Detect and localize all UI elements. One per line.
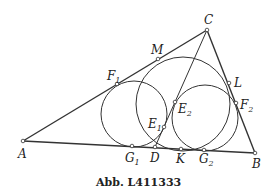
point-e1 [162, 125, 166, 129]
label-m: M [150, 43, 164, 57]
point-f2 [234, 101, 238, 105]
label-d: D [149, 151, 160, 165]
label-f2: F2 [239, 98, 253, 114]
label-g1: G1 [125, 151, 140, 167]
geometry-diagram: A B C D K M L F1 F2 G1 G2 E1 E2 Abb. L41… [0, 0, 278, 191]
label-b: B [251, 157, 261, 171]
label-a: A [17, 147, 27, 161]
point-c [205, 28, 209, 32]
point-l [227, 81, 231, 85]
point-g1 [130, 144, 134, 148]
side-ca [23, 30, 207, 141]
point-d [153, 145, 157, 149]
label-k: K [175, 152, 186, 166]
point-e2 [173, 100, 177, 104]
label-e2: E2 [177, 102, 192, 118]
figure-caption: Abb. L411333 [95, 176, 181, 189]
incircle-1 [101, 81, 167, 147]
label-e1: E1 [147, 117, 162, 133]
label-g2: G2 [199, 152, 214, 168]
point-a [21, 139, 25, 143]
label-f1: F1 [106, 69, 120, 85]
label-c: C [204, 13, 213, 27]
label-l: L [233, 76, 242, 90]
side-bc [207, 30, 255, 153]
point-m [156, 57, 160, 61]
point-k [179, 147, 183, 151]
point-b [253, 151, 257, 155]
